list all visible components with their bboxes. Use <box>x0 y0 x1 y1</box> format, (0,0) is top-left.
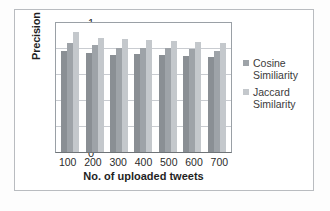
legend-label-line2: Similarity <box>253 99 313 111</box>
bar-group <box>208 23 226 152</box>
bar <box>195 42 201 153</box>
x-tick-label: 100 <box>57 156 79 168</box>
x-tick-label: 700 <box>208 156 230 168</box>
bar-group <box>110 23 128 152</box>
legend-entry[interactable]: JaccardSimilarity <box>243 87 313 110</box>
bar <box>122 39 128 152</box>
bar-group <box>183 23 201 152</box>
x-axis-title: No. of uploaded tweets <box>55 170 232 182</box>
legend-row: Jaccard <box>243 87 313 99</box>
legend-label-line1: Jaccard <box>253 87 290 99</box>
bar <box>98 38 104 152</box>
bar <box>73 32 79 152</box>
y-axis-title-wrap: Precision <box>34 0 54 180</box>
bar-group <box>159 23 177 152</box>
x-tick-label: 400 <box>132 156 154 168</box>
legend-swatch-icon <box>243 89 249 95</box>
x-tick-label: 600 <box>183 156 205 168</box>
bar-groups <box>56 23 231 152</box>
chart-legend: CosineSimiliarityJaccardSimilarity <box>243 58 313 116</box>
bar <box>146 40 152 152</box>
bar <box>220 43 226 152</box>
bar-group <box>61 23 79 152</box>
x-tick-label: 300 <box>107 156 129 168</box>
x-tick-label: 500 <box>158 156 180 168</box>
legend-label-line1: Cosine <box>253 58 286 70</box>
plot-area <box>55 22 232 153</box>
bar-group <box>134 23 152 152</box>
y-axis-title: Precision <box>30 0 42 60</box>
chart-figure: 1 0.8 0.6 0.4 0.2 0 Precision 1002003004… <box>0 0 330 211</box>
bar <box>171 41 177 152</box>
bar-group <box>86 23 104 152</box>
x-tick-label: 200 <box>82 156 104 168</box>
legend-entry[interactable]: CosineSimiliarity <box>243 58 313 81</box>
legend-swatch-icon <box>243 60 249 66</box>
legend-label-line2: Similiarity <box>253 70 313 82</box>
x-axis-tick-labels: 100200300400500600700 <box>55 156 232 168</box>
legend-row: Cosine <box>243 58 313 70</box>
